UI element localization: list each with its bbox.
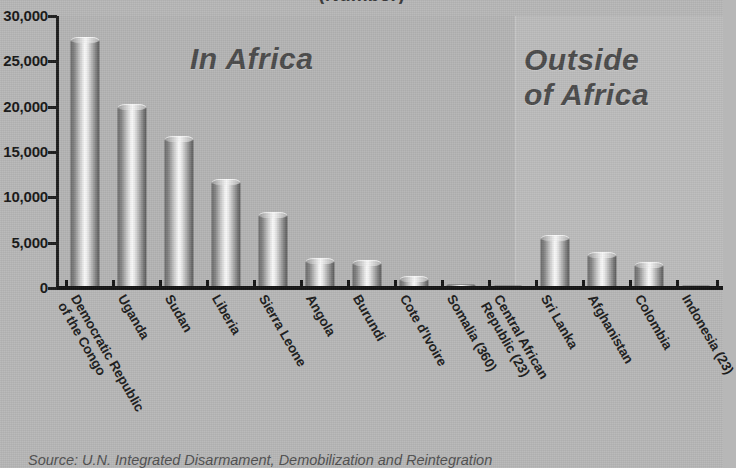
x-tick [716,280,719,288]
bar-cap [635,262,663,268]
bar [118,107,146,288]
x-axis-category-labels: Democratic Republic of the CongoUgandaSu… [0,292,723,442]
bar-cap [588,252,616,258]
bar [353,263,381,288]
x-category-label: Uganda [115,292,153,342]
source-text: U.N. Integrated Disarmament, Demobilizat… [82,452,492,468]
x-tick [253,280,256,288]
bar [165,139,193,288]
bar-cap [71,37,99,43]
bar-cap [212,179,240,185]
bar [541,238,569,288]
panel-label-outside-line2: of Africa [524,77,719,112]
bar-cap [259,212,287,218]
y-tick-label: 30,000 [0,7,48,24]
x-category-label: Sri Lanka [538,292,581,351]
y-tick [48,242,57,245]
bar-cap [118,104,146,110]
x-category-label: Cote d'Ivoire [397,292,450,369]
bar-cap [541,235,569,241]
bar-cap [306,258,334,264]
x-tick [65,280,68,288]
x-tick [582,280,585,288]
x-tick [535,280,538,288]
x-tick [112,280,115,288]
bar [71,40,99,288]
panel-label-in-africa: In Africa [190,42,313,76]
x-category-label: Liberia [209,292,244,337]
source-note: Source: U.N. Integrated Disarmament, Dem… [28,452,728,468]
panel-divider [515,16,516,288]
x-tick [347,280,350,288]
panel-label-outside-africa: Outside of Africa [524,42,719,112]
x-category-label: Sudan [162,292,195,335]
x-category-label: Afghanistan [585,292,637,366]
x-tick [394,280,397,288]
y-tick [48,151,57,154]
x-axis [56,286,723,290]
x-tick [441,280,444,288]
x-category-label: Colombia [632,292,675,352]
x-category-label: Sierra Leone [256,292,309,369]
y-tick [48,287,57,290]
x-tick [629,280,632,288]
x-tick [159,280,162,288]
bar-cap [165,136,193,142]
bar [306,261,334,288]
x-category-label: Angola [303,292,339,339]
bar [259,215,287,288]
chart-title: (Number) [0,0,723,4]
y-tick [48,196,57,199]
x-tick [676,280,679,288]
y-tick-label: 20,000 [0,98,48,115]
x-category-label: Central African Republic (23) [478,292,552,389]
bar [588,255,616,288]
bar-cap [400,276,428,282]
y-tick [48,60,57,63]
bar [212,182,240,288]
y-tick [48,106,57,109]
y-tick [48,15,57,18]
panel-label-outside-line1: Outside [524,42,719,77]
x-tick [300,280,303,288]
y-tick-label: 5,000 [0,234,48,251]
bar-cap [353,260,381,266]
y-tick-label: 25,000 [0,52,48,69]
y-tick-label: 15,000 [0,143,48,160]
bar [635,265,663,288]
x-category-label: Burundi [350,292,389,344]
y-axis-labels: 30,00025,00020,00015,00010,0005,0000 [0,0,48,300]
x-tick [206,280,209,288]
x-tick [488,280,491,288]
source-prefix: Source: [28,452,78,468]
x-category-label: Indonesia (23) [678,292,736,377]
y-tick-label: 10,000 [0,188,48,205]
